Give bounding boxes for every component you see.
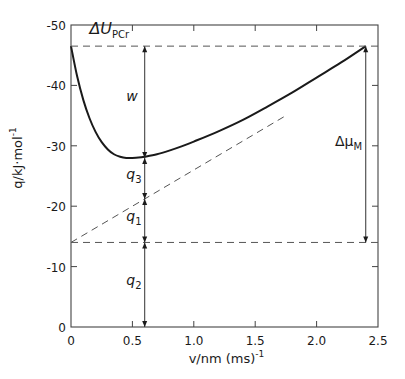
dashed-line (71, 116, 286, 243)
y-tick-label: -20 (46, 200, 66, 214)
x-tick-label: 0.5 (123, 334, 142, 348)
arrowhead-up-icon (142, 46, 147, 52)
chart: 00.51.01.52.02.50-10-20-30-40-50ΔUPCrwq3… (0, 0, 405, 379)
arrowhead-up-icon (142, 199, 147, 205)
annotation-delta-u-pcr: ΔUPCr (87, 19, 130, 40)
y-axis-label: q/kJ·mol-1 (8, 127, 25, 188)
x-axis-label: v/nm (ms)-1 (189, 349, 265, 366)
x-tick-label: 2.0 (307, 334, 326, 348)
annotation-q-3: q3 (126, 166, 141, 185)
y-tick-label: -40 (46, 79, 66, 93)
annotation-w: w (126, 88, 138, 104)
x-tick-label: 1.0 (184, 334, 203, 348)
y-tick-label: -50 (46, 19, 66, 33)
arrowhead-up-icon (142, 242, 147, 248)
axes-frame (71, 25, 378, 327)
y-tick-label: -10 (46, 261, 66, 275)
y-tick-label: -30 (46, 140, 66, 154)
x-tick-label: 1.5 (246, 334, 265, 348)
arrowhead-down-icon (142, 236, 147, 242)
label-layer: 00.51.01.52.02.50-10-20-30-40-50ΔUPCrwq3… (8, 19, 388, 366)
y-tick-label: 0 (58, 321, 66, 335)
plot-frame (71, 25, 378, 327)
heat-curve (71, 46, 366, 158)
arrowhead-down-icon (142, 321, 147, 327)
series-layer (71, 46, 378, 242)
x-tick-label: 0 (67, 334, 75, 348)
arrowhead-down-icon (363, 236, 368, 242)
arrow-layer (142, 46, 368, 327)
annotation-q-1: q1 (126, 208, 141, 227)
annotation-delta-mu-m: ΔμM (335, 133, 362, 152)
x-tick-label: 2.5 (368, 334, 387, 348)
annotation-q-2: q2 (126, 272, 141, 291)
arrowhead-up-icon (142, 158, 147, 164)
